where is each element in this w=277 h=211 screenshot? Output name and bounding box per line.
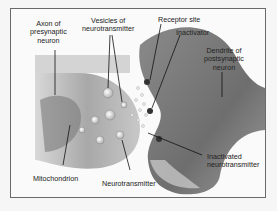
label-inactivated-neurotransmitter: Inactivated neurotransmitter (207, 153, 259, 170)
label-axon: Axon of presynaptic neuron (30, 20, 67, 45)
label-mitochondrion: Mitochondrion (33, 175, 78, 183)
label-vesicles: Vesicles of neurotransmitter (82, 17, 134, 34)
label-neurotransmitter: Neurotransmitter (102, 180, 156, 188)
label-receptor-site: Receptor site (158, 16, 200, 24)
label-inactivator: Inactivator (176, 29, 209, 37)
label-dendrite: Dendrite of postsynaptic neuron (204, 47, 244, 72)
